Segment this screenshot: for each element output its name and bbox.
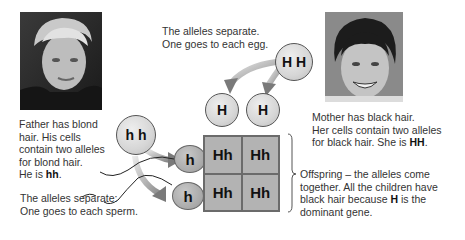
dominant-allele: H <box>390 193 398 205</box>
text-line: The alleles separate. <box>162 25 268 38</box>
text-span: for black hair. She is <box>312 136 409 148</box>
father-description: Father has blond hair. His cells contain… <box>19 118 105 181</box>
punnett-square: Hh Hh Hh Hh <box>203 135 280 212</box>
text-span: is the <box>398 193 426 205</box>
father-cell-alleles: h h <box>126 127 147 143</box>
mother-genotype: HH <box>409 136 424 148</box>
sperm-allele: h <box>185 151 194 168</box>
text-span: . <box>425 136 428 148</box>
text-span: He is <box>19 168 46 180</box>
mother-cell: H H <box>275 43 313 81</box>
mother-genotype-line: for black hair. She is HH. <box>312 136 442 149</box>
offspring-brace <box>288 134 296 212</box>
text-line: Offspring – the alleles come <box>300 168 438 181</box>
egg-right: H <box>246 93 280 127</box>
text-line: dominant gene. <box>300 206 438 219</box>
text-line: One goes to each sperm. <box>20 205 138 218</box>
text-span: black hair because <box>300 193 390 205</box>
text-line: The alleles separate: <box>20 192 138 205</box>
sperm-allele: h <box>183 188 192 205</box>
father-separate-text: The alleles separate: One goes to each s… <box>20 192 138 217</box>
text-line: for blond hair. <box>19 156 105 169</box>
punnett-cell: Hh <box>242 136 280 174</box>
punnett-cell: Hh <box>204 174 242 212</box>
sperm-top: h <box>174 145 206 173</box>
punnett-cell: Hh <box>204 136 242 174</box>
offspring-description: Offspring – the alleles come together. A… <box>300 168 438 218</box>
mother-description: Mother has black hair. Her cells contain… <box>312 111 442 149</box>
egg-allele: H <box>258 102 268 118</box>
father-genotype: hh <box>46 168 59 180</box>
punnett-cell: Hh <box>242 174 280 212</box>
text-line: hair. His cells <box>19 131 105 144</box>
father-genotype-line: He is hh. <box>19 168 105 181</box>
text-line: Father has blond <box>19 118 105 131</box>
text-line: Mother has black hair. <box>312 111 442 124</box>
mother-separate-text: The alleles separate. One goes to each e… <box>162 25 268 50</box>
text-line: Her cells contain two alleles <box>312 124 442 137</box>
egg-allele: H <box>217 102 227 118</box>
text-line: together. All the children have <box>300 181 438 194</box>
text-line: contain two alleles <box>19 143 105 156</box>
sperm-bottom: h <box>172 182 204 210</box>
offspring-dominant-line: black hair because H is the <box>300 193 438 206</box>
text-span: . <box>59 168 62 180</box>
father-cell: h h <box>116 115 156 155</box>
egg-left: H <box>205 93 239 127</box>
text-line: One goes to each egg. <box>162 38 268 51</box>
mother-cell-alleles: H H <box>282 54 306 70</box>
